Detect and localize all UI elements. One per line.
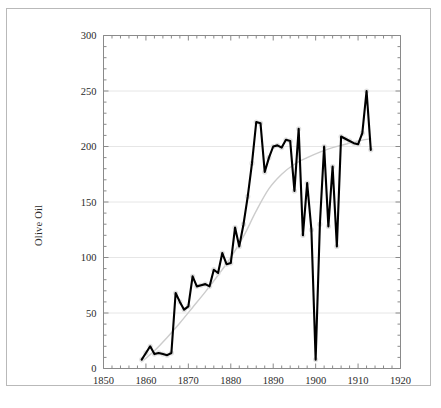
x-tick-label: 1910 <box>348 375 369 386</box>
y-tick-label: 0 <box>91 363 96 374</box>
y-tick-label: 200 <box>81 141 97 152</box>
x-tick-label: 1880 <box>220 375 241 386</box>
x-tick-label: 1900 <box>305 375 326 386</box>
x-tick-label: 1850 <box>93 375 114 386</box>
x-tick-label: 1870 <box>178 375 199 386</box>
y-tick-label: 100 <box>81 252 97 263</box>
x-tick-label: 1920 <box>390 375 411 386</box>
chart-figure: Olive Oil 050100150200250300185018601870… <box>0 0 441 408</box>
y-tick-label: 300 <box>81 30 97 41</box>
y-tick-label: 50 <box>86 308 97 319</box>
x-tick-label: 1890 <box>263 375 284 386</box>
y-tick-label: 150 <box>81 197 97 208</box>
x-tick-label: 1860 <box>135 375 156 386</box>
y-tick-label: 250 <box>81 86 97 97</box>
plot-canvas: 0501001502002503001850186018701880189019… <box>0 0 441 408</box>
